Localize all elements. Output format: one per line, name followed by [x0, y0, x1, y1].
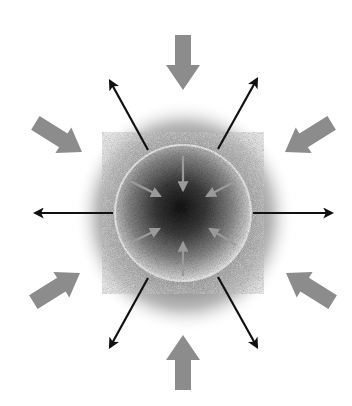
inward-arrow-lower-right — [278, 260, 341, 315]
inward-arrow-top — [166, 35, 200, 90]
inward-arrow-upper-left — [27, 110, 90, 165]
inward-arrow-bottom — [166, 335, 200, 390]
radial-force-diagram — [0, 0, 352, 406]
inward-arrow-lower-left — [25, 260, 88, 315]
inward-arrow-upper-right — [277, 110, 340, 165]
